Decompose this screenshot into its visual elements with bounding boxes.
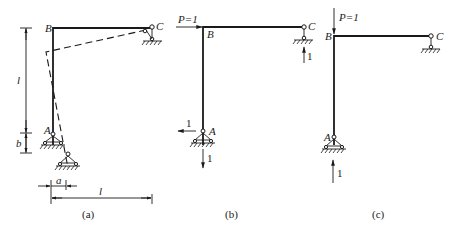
node-label-b: B — [45, 22, 52, 34]
ground-hatch-c — [293, 40, 313, 44]
reaction-label-a-vertical: 1 — [207, 152, 213, 164]
displaced-support-a — [55, 152, 80, 170]
reaction-label-a-vertical: 1 — [337, 167, 343, 179]
frame-members — [203, 27, 304, 145]
load-label-p: P=1 — [338, 11, 359, 23]
node-label-c: C — [156, 20, 164, 32]
node-label-a: A — [208, 125, 216, 137]
frame-members — [334, 36, 431, 145]
node-label-a: A — [323, 131, 331, 143]
caption-a: (a) — [82, 208, 95, 221]
ground-hatch-c — [142, 41, 162, 45]
vertical-dimension — [20, 28, 32, 153]
dim-label-a: a — [56, 174, 62, 186]
node-label-c: C — [436, 30, 444, 42]
ground-hatch-c — [421, 49, 440, 53]
structural-frames-figure: B C A l b a l (a) — [0, 0, 454, 238]
dim-label-b: b — [16, 137, 22, 149]
caption-c: (c) — [372, 208, 385, 221]
hinge-c — [429, 34, 433, 38]
roller-pin-c — [429, 45, 433, 49]
panel-c: P=1 B C A 1 (c) — [321, 8, 444, 221]
reaction-label-a-horizontal: 1 — [186, 117, 192, 129]
node-label-c: C — [308, 20, 316, 32]
displaced-pin-c — [143, 29, 147, 33]
load-label-p: P=1 — [177, 13, 198, 25]
node-label-b: B — [325, 30, 332, 42]
hinge-c — [150, 25, 154, 29]
node-label-b: B — [207, 28, 214, 40]
panel-a: B C A l b a l (a) — [16, 20, 164, 221]
frame-members — [53, 28, 152, 145]
panel-b: 1 P=1 B C A 1 1 (b) — [176, 13, 316, 221]
caption-b: (b) — [225, 208, 238, 221]
hinge-c — [302, 25, 306, 29]
dim-label-l-horizontal: l — [99, 185, 102, 197]
dim-label-l-vertical: l — [17, 74, 20, 86]
roller-pin-c — [302, 36, 306, 40]
reaction-label-c: 1 — [307, 50, 313, 62]
node-label-a: A — [43, 124, 51, 136]
